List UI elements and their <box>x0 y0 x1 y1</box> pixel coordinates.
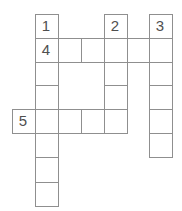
crossword-cell[interactable] <box>35 85 59 110</box>
cell-number: 5 <box>19 113 27 128</box>
crossword-cell[interactable] <box>58 38 82 63</box>
crossword-cell-numbered[interactable]: 3 <box>149 14 173 39</box>
crossword-cell[interactable] <box>104 85 128 110</box>
crossword-cell[interactable] <box>149 85 173 110</box>
crossword-cell[interactable] <box>149 133 173 158</box>
crossword-grid: 12345 <box>0 0 182 211</box>
crossword-cell[interactable] <box>35 109 59 134</box>
crossword-cell[interactable] <box>104 109 128 134</box>
crossword-cell[interactable] <box>35 62 59 86</box>
crossword-puzzle: 12345 <box>0 0 182 211</box>
crossword-cell-numbered[interactable]: 1 <box>35 14 59 39</box>
crossword-cell-numbered[interactable]: 2 <box>104 14 128 39</box>
crossword-cell[interactable] <box>149 38 173 63</box>
crossword-cell[interactable] <box>35 133 59 158</box>
crossword-cell[interactable] <box>58 109 82 134</box>
crossword-cell[interactable] <box>149 109 173 134</box>
cell-number: 4 <box>42 42 50 57</box>
cell-number: 3 <box>156 18 164 33</box>
crossword-cell[interactable] <box>35 182 59 207</box>
crossword-cell[interactable] <box>81 38 105 63</box>
crossword-cell[interactable] <box>35 157 59 183</box>
crossword-cell[interactable] <box>127 38 150 63</box>
crossword-cell[interactable] <box>104 38 128 63</box>
crossword-cell-numbered[interactable]: 4 <box>35 38 59 63</box>
cell-number: 1 <box>42 18 50 33</box>
crossword-cell[interactable] <box>149 62 173 86</box>
cell-number: 2 <box>111 18 119 33</box>
crossword-cell-numbered[interactable]: 5 <box>12 109 36 134</box>
crossword-cell[interactable] <box>81 109 105 134</box>
crossword-cell[interactable] <box>104 62 128 86</box>
